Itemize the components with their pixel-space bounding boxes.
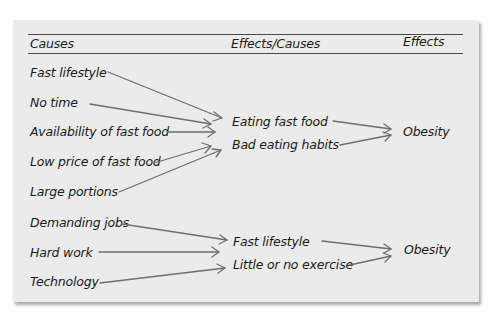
header-bottom-rule <box>28 53 463 54</box>
header-top-rule <box>28 34 463 35</box>
cause-no-time: No time <box>30 96 78 110</box>
cause-demanding-jobs: Demanding jobs <box>30 216 129 230</box>
effect-obesity-1: Obesity <box>403 125 449 139</box>
effect-cause-bad-eating-habits: Bad eating habits <box>232 138 339 152</box>
header-causes: Causes <box>30 37 74 51</box>
cause-low-price-of-fast-food: Low price of fast food <box>30 155 161 169</box>
header-effects: Effects <box>403 35 444 49</box>
cause-large-portions: Large portions <box>30 185 118 199</box>
cause-fast-lifestyle: Fast lifestyle <box>30 66 106 80</box>
cause-technology: Technology <box>30 275 99 289</box>
effect-cause-eating-fast-food: Eating fast food <box>232 115 328 129</box>
header-effects-causes: Effects/Causes <box>231 37 320 51</box>
cause-hard-work: Hard work <box>30 246 93 260</box>
cause-availability-of-fast-food: Availability of fast food <box>30 125 169 139</box>
effect-cause-little-or-no-exercise: Little or no exercise <box>233 258 353 272</box>
effect-obesity-2: Obesity <box>404 243 450 257</box>
effect-cause-fast-lifestyle: Fast lifestyle <box>233 235 309 249</box>
